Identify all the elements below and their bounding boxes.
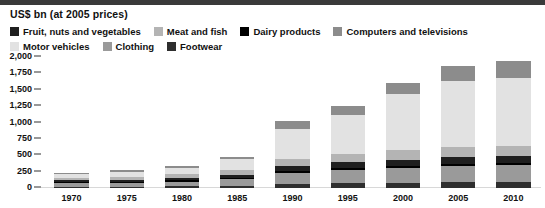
plot-area: 02505007501,0001,2501,5001,7502,000 1970…: [0, 56, 545, 208]
bar-group-2000[interactable]: [386, 83, 420, 188]
bar-group-1980[interactable]: [165, 166, 199, 188]
y-tick-label: 500: [17, 149, 32, 159]
legend-label: Motor vehicles: [23, 42, 90, 52]
x-tick-label: 1970: [62, 193, 82, 203]
legend-row-1: Fruit, nuts and vegetablesMeat and fishD…: [10, 25, 540, 38]
x-tick-label: 2000: [393, 193, 413, 203]
bar-group-1995[interactable]: [331, 105, 365, 188]
bar-segment-footwear[interactable]: [110, 187, 144, 188]
bar-segment-footwear[interactable]: [496, 182, 530, 188]
x-axis: 197019751980198519901995200020052010: [44, 189, 541, 207]
bar-segment-clothing[interactable]: [496, 165, 530, 182]
y-tick-mark: [34, 187, 41, 188]
bar-group-1975[interactable]: [110, 170, 144, 188]
bar-segment-meat-and-fish[interactable]: [496, 146, 530, 157]
legend-swatch-fruit-nuts-vegetables-icon: [10, 27, 19, 36]
y-tick-mark: [34, 137, 41, 138]
y-tick-mark: [34, 121, 41, 122]
legend-row-2: Motor vehiclesClothingFootwear: [10, 40, 540, 53]
bar-segment-meat-and-fish[interactable]: [441, 147, 475, 157]
legend-label: Computers and televisions: [346, 27, 467, 37]
bar-group-1985[interactable]: [220, 157, 254, 188]
bar-segment-computers-and-televisions[interactable]: [441, 66, 475, 82]
bar-segment-footwear[interactable]: [331, 183, 365, 188]
bar-segment-computers-and-televisions[interactable]: [496, 61, 530, 78]
y-tick-label: 1,000: [9, 117, 32, 127]
chart-legend: Fruit, nuts and vegetablesMeat and fishD…: [10, 25, 540, 55]
units-caption: US$ bn (at 2005 prices): [10, 8, 128, 20]
bar-segment-clothing[interactable]: [220, 179, 254, 186]
bar-segment-motor-vehicles[interactable]: [331, 115, 365, 154]
legend-swatch-dairy-products-icon: [240, 27, 249, 36]
bar-segment-footwear[interactable]: [54, 187, 88, 188]
y-tick-label: 0: [27, 182, 32, 192]
bars-container: [44, 56, 541, 188]
legend-swatch-clothing-icon: [103, 42, 112, 51]
legend-item-motor-vehicles[interactable]: Motor vehicles: [10, 42, 90, 52]
bar-segment-footwear[interactable]: [275, 184, 309, 188]
bar-segment-computers-and-televisions[interactable]: [331, 106, 365, 115]
y-tick-label: 250: [17, 166, 32, 176]
legend-label: Clothing: [116, 42, 155, 52]
bar-group-1970[interactable]: [54, 173, 88, 188]
x-tick-label: 1975: [117, 193, 137, 203]
top-rule: [0, 0, 545, 5]
y-tick-mark: [34, 88, 41, 89]
legend-swatch-motor-vehicles-icon: [10, 42, 19, 51]
x-tick-label: 1980: [172, 193, 192, 203]
bar-segment-motor-vehicles[interactable]: [275, 129, 309, 159]
legend-swatch-footwear-icon: [167, 42, 176, 51]
bar-segment-footwear[interactable]: [165, 186, 199, 188]
legend-label: Meat and fish: [167, 27, 228, 37]
legend-item-dairy-products[interactable]: Dairy products: [240, 27, 320, 37]
y-axis: 02505007501,0001,2501,5001,7502,000: [0, 56, 42, 188]
legend-label: Fruit, nuts and vegetables: [23, 27, 141, 37]
x-tick-label: 1985: [227, 193, 247, 203]
y-tick-mark: [34, 56, 41, 57]
bar-segment-footwear[interactable]: [441, 182, 475, 188]
y-tick-label: 750: [17, 133, 32, 143]
bar-segment-clothing[interactable]: [275, 173, 309, 184]
y-tick-label: 1,750: [9, 67, 32, 77]
y-tick-label: 1,250: [9, 100, 32, 110]
legend-label: Dairy products: [253, 27, 320, 37]
legend-swatch-computers-and-televisions-icon: [333, 27, 342, 36]
bar-segment-motor-vehicles[interactable]: [441, 81, 475, 147]
bar-segment-clothing[interactable]: [441, 166, 475, 182]
legend-item-computers-and-televisions[interactable]: Computers and televisions: [333, 27, 467, 37]
y-tick-label: 2,000: [9, 51, 32, 61]
bar-segment-footwear[interactable]: [386, 183, 420, 188]
x-tick-label: 2010: [503, 193, 523, 203]
y-tick-mark: [34, 72, 41, 73]
legend-label: Footwear: [180, 42, 222, 52]
chart-root: US$ bn (at 2005 prices) Fruit, nuts and …: [0, 0, 545, 208]
x-tick-label: 1995: [338, 193, 358, 203]
x-tick-label: 1990: [282, 193, 302, 203]
x-tick-label: 2005: [448, 193, 468, 203]
legend-item-footwear[interactable]: Footwear: [167, 42, 222, 52]
bar-segment-computers-and-televisions[interactable]: [386, 83, 420, 94]
legend-item-clothing[interactable]: Clothing: [103, 42, 155, 52]
y-tick-mark: [34, 154, 41, 155]
y-tick-label: 1,500: [9, 84, 32, 94]
bar-segment-footwear[interactable]: [220, 186, 254, 188]
legend-swatch-meat-and-fish-icon: [154, 27, 163, 36]
bar-group-2010[interactable]: [496, 61, 530, 188]
bar-group-1990[interactable]: [275, 121, 309, 188]
bar-segment-motor-vehicles[interactable]: [386, 94, 420, 150]
y-tick-mark: [34, 170, 41, 171]
legend-item-fruit-nuts-vegetables[interactable]: Fruit, nuts and vegetables: [10, 27, 141, 37]
legend-item-meat-and-fish[interactable]: Meat and fish: [154, 27, 228, 37]
y-tick-mark: [34, 105, 41, 106]
bar-segment-motor-vehicles[interactable]: [220, 159, 254, 170]
bar-segment-meat-and-fish[interactable]: [331, 154, 365, 163]
bar-group-2005[interactable]: [441, 66, 475, 188]
bar-segment-motor-vehicles[interactable]: [496, 78, 530, 145]
bar-segment-meat-and-fish[interactable]: [275, 159, 309, 166]
bar-segment-computers-and-televisions[interactable]: [275, 121, 309, 129]
bar-segment-clothing[interactable]: [331, 170, 365, 184]
bar-segment-clothing[interactable]: [386, 168, 420, 183]
bar-segment-meat-and-fish[interactable]: [386, 150, 420, 159]
